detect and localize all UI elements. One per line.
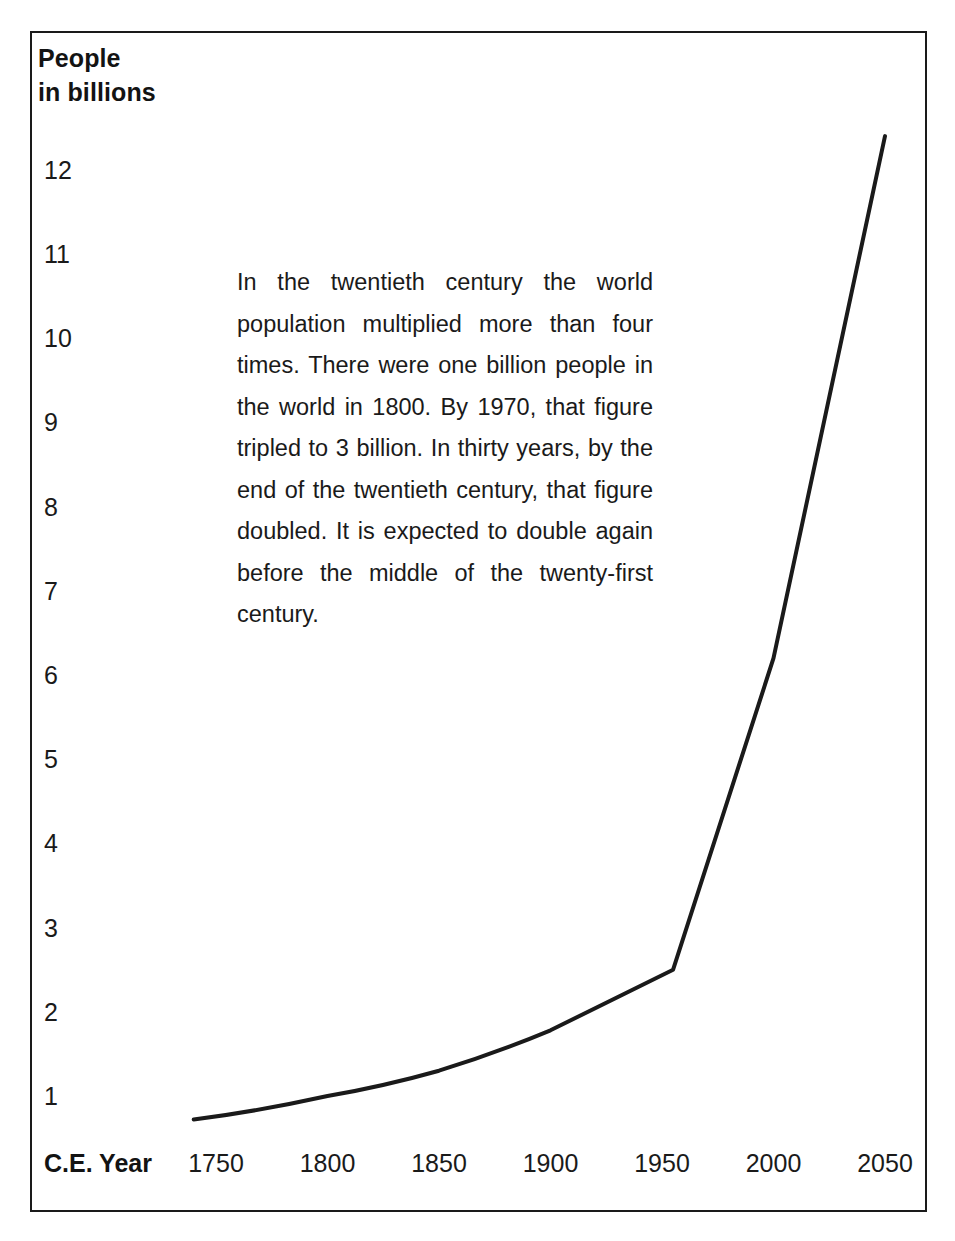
y-axis-title: People in billions: [38, 41, 156, 109]
y-axis-tick-3: 3: [44, 915, 90, 940]
y-axis-tick-8: 8: [44, 494, 90, 519]
y-axis-tick-9: 9: [44, 410, 90, 435]
y-axis-tick-4: 4: [44, 831, 90, 856]
x-axis-tick-2000: 2000: [746, 1151, 802, 1176]
x-axis-name-label: C.E. Year: [44, 1151, 152, 1176]
annotation-paragraph: In the twentieth century the world popul…: [237, 262, 653, 636]
y-axis-tick-7: 7: [44, 578, 90, 603]
x-axis-tick-1850: 1850: [411, 1151, 467, 1176]
y-axis-tick-6: 6: [44, 663, 90, 688]
y-axis-tick-5: 5: [44, 747, 90, 772]
y-axis-tick-2: 2: [44, 999, 90, 1024]
y-axis-tick-12: 12: [44, 157, 90, 182]
chart-page: People in billions 121110987654321 In th…: [0, 0, 955, 1241]
x-axis-tick-1750: 1750: [188, 1151, 244, 1176]
x-axis-tick-1900: 1900: [523, 1151, 579, 1176]
x-axis-tick-2050: 2050: [857, 1151, 913, 1176]
x-axis-tick-group: C.E. Year 1750180018501900195020002050: [0, 1151, 955, 1191]
y-axis-tick-11: 11: [44, 242, 90, 267]
x-axis-tick-1800: 1800: [300, 1151, 356, 1176]
x-axis-tick-1950: 1950: [634, 1151, 690, 1176]
y-axis-tick-10: 10: [44, 326, 90, 351]
y-axis-tick-1: 1: [44, 1084, 90, 1109]
